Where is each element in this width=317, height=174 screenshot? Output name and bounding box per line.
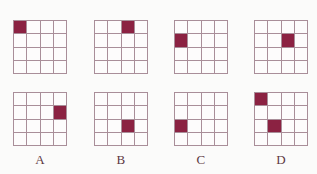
grid-cell-empty[interactable] (14, 48, 27, 61)
option-column-b[interactable]: B (81, 0, 161, 174)
grid-cell-empty[interactable] (122, 106, 135, 119)
grid-cell-empty[interactable] (41, 34, 54, 47)
grid-cell-empty[interactable] (14, 133, 27, 146)
grid-cell-empty[interactable] (14, 34, 27, 47)
grid-cell-empty[interactable] (202, 133, 215, 146)
grid-cell-empty[interactable] (202, 106, 215, 119)
grid-cell-empty[interactable] (95, 133, 108, 146)
grid-cell-empty[interactable] (215, 120, 228, 133)
grid-cell-empty[interactable] (54, 120, 67, 133)
grid-cell-empty[interactable] (255, 106, 268, 119)
grid-cell-empty[interactable] (27, 61, 40, 74)
grid-cell-empty[interactable] (215, 21, 228, 34)
grid-cell-empty[interactable] (282, 133, 295, 146)
grid-cell-empty[interactable] (122, 61, 135, 74)
grid-cell-empty[interactable] (108, 133, 121, 146)
grid-cell-empty[interactable] (188, 106, 201, 119)
grid-cell-empty[interactable] (282, 106, 295, 119)
grid-cell-empty[interactable] (27, 120, 40, 133)
grid-cell-empty[interactable] (14, 106, 27, 119)
grid-cell-empty[interactable] (215, 133, 228, 146)
grid-cell-empty[interactable] (295, 106, 308, 119)
grid-cell-empty[interactable] (202, 93, 215, 106)
grid-cell-empty[interactable] (14, 93, 27, 106)
grid-cell-empty[interactable] (188, 48, 201, 61)
grid-cell-empty[interactable] (282, 61, 295, 74)
grid-cell-empty[interactable] (54, 21, 67, 34)
grid-cell-empty[interactable] (95, 48, 108, 61)
grid-cell-empty[interactable] (188, 21, 201, 34)
grid-cell-empty[interactable] (282, 48, 295, 61)
grid-cell-empty[interactable] (108, 21, 121, 34)
grid-cell-empty[interactable] (268, 133, 281, 146)
grid-cell-empty[interactable] (95, 21, 108, 34)
grid-cell-empty[interactable] (215, 34, 228, 47)
grid-cell-empty[interactable] (202, 61, 215, 74)
grid-cell-empty[interactable] (175, 93, 188, 106)
grid-cell-empty[interactable] (255, 61, 268, 74)
grid-cell-empty[interactable] (27, 21, 40, 34)
grid-cell-empty[interactable] (108, 106, 121, 119)
grid-cell-empty[interactable] (95, 120, 108, 133)
grid-cell-empty[interactable] (54, 133, 67, 146)
grid-cell-empty[interactable] (268, 48, 281, 61)
grid-cell-empty[interactable] (122, 48, 135, 61)
grid-cell-empty[interactable] (108, 48, 121, 61)
grid-cell-empty[interactable] (255, 21, 268, 34)
grid-cell-empty[interactable] (122, 93, 135, 106)
grid-cell-empty[interactable] (135, 133, 148, 146)
grid-cell-empty[interactable] (27, 106, 40, 119)
grid-cell-empty[interactable] (175, 133, 188, 146)
grid-a-bottom[interactable] (13, 92, 67, 146)
grid-cell-empty[interactable] (41, 106, 54, 119)
grid-cell-empty[interactable] (122, 133, 135, 146)
grid-cell-empty[interactable] (215, 106, 228, 119)
grid-cell-empty[interactable] (188, 120, 201, 133)
grid-cell-empty[interactable] (202, 48, 215, 61)
grid-cell-empty[interactable] (122, 34, 135, 47)
grid-cell-empty[interactable] (188, 61, 201, 74)
grid-cell-empty[interactable] (27, 133, 40, 146)
grid-cell-empty[interactable] (295, 34, 308, 47)
grid-cell-empty[interactable] (282, 120, 295, 133)
grid-cell-empty[interactable] (268, 34, 281, 47)
grid-cell-empty[interactable] (268, 21, 281, 34)
grid-cell-empty[interactable] (27, 34, 40, 47)
grid-cell-empty[interactable] (188, 93, 201, 106)
grid-cell-filled[interactable] (175, 34, 188, 47)
grid-cell-empty[interactable] (108, 34, 121, 47)
grid-cell-empty[interactable] (255, 34, 268, 47)
grid-cell-empty[interactable] (295, 120, 308, 133)
grid-cell-empty[interactable] (175, 21, 188, 34)
grid-cell-empty[interactable] (108, 61, 121, 74)
grid-cell-empty[interactable] (108, 120, 121, 133)
grid-cell-empty[interactable] (202, 21, 215, 34)
grid-cell-empty[interactable] (135, 61, 148, 74)
grid-cell-empty[interactable] (27, 48, 40, 61)
grid-cell-empty[interactable] (41, 21, 54, 34)
grid-cell-empty[interactable] (295, 133, 308, 146)
grid-cell-empty[interactable] (54, 61, 67, 74)
grid-cell-empty[interactable] (215, 61, 228, 74)
grid-cell-empty[interactable] (135, 48, 148, 61)
grid-cell-empty[interactable] (135, 120, 148, 133)
grid-cell-empty[interactable] (135, 106, 148, 119)
grid-c-top[interactable] (174, 20, 228, 74)
grid-cell-empty[interactable] (135, 21, 148, 34)
grid-cell-empty[interactable] (202, 120, 215, 133)
grid-cell-filled[interactable] (282, 34, 295, 47)
grid-cell-empty[interactable] (295, 93, 308, 106)
grid-cell-empty[interactable] (215, 93, 228, 106)
grid-cell-empty[interactable] (175, 106, 188, 119)
grid-cell-empty[interactable] (41, 61, 54, 74)
option-column-c[interactable]: C (161, 0, 241, 174)
grid-cell-empty[interactable] (108, 93, 121, 106)
grid-cell-empty[interactable] (175, 48, 188, 61)
grid-cell-empty[interactable] (54, 93, 67, 106)
option-column-d[interactable]: D (241, 0, 317, 174)
grid-cell-empty[interactable] (282, 21, 295, 34)
grid-d-top[interactable] (254, 20, 308, 74)
grid-cell-empty[interactable] (295, 48, 308, 61)
grid-cell-empty[interactable] (41, 93, 54, 106)
grid-cell-empty[interactable] (54, 34, 67, 47)
